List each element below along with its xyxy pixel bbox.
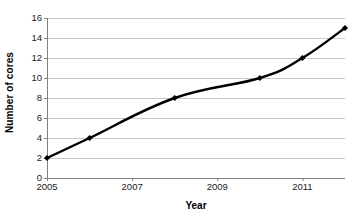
data-series: 2005: 22006: 42008: 82010: 102011: 12201… [44, 25, 348, 161]
line-chart: Number of cores 0246810121416 2005200720… [0, 0, 357, 223]
data-point-marker: 2008: 8 [172, 95, 178, 101]
plot-area: 2005: 22006: 42008: 82010: 102011: 12201… [0, 0, 357, 223]
data-point-marker: 2010: 10 [257, 75, 263, 81]
x-axis-title: Year [47, 200, 345, 211]
